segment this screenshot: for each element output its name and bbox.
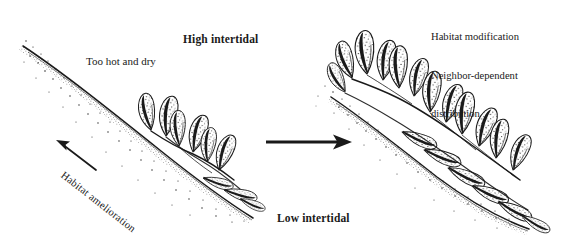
label-too-hot-and-dry: Too hot and dry [86,55,156,68]
right-plant-cluster-upper [323,30,431,98]
label-low-intertidal: Low intertidal [277,212,350,226]
label-high-intertidal: High intertidal [183,33,258,47]
right-note-line-3: distribution [431,108,519,121]
label-right-notes: Habitat modification Neighbor-dependent … [431,5,519,147]
transition-arrow [266,135,352,150]
right-note-line-1: Habitat modification [431,31,519,44]
right-note-line-2: Neighbor-dependent [431,70,519,83]
habitat-amelioration-arrow [56,140,96,170]
figure-canvas: High intertidal Too hot and dry Low inte… [0,0,571,251]
